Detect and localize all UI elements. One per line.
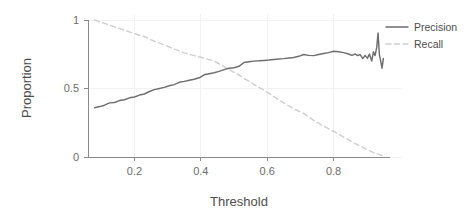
y-tick-label-0: 0	[73, 151, 79, 163]
x-tick-label-2: 0.6	[260, 165, 275, 177]
legend-label-recall: Recall	[414, 38, 443, 50]
y-tick-label-2: 1	[73, 14, 79, 26]
x-tick-label-3: 0.8	[326, 165, 341, 177]
x-tick-label-1: 0.4	[193, 165, 208, 177]
chart-background	[0, 0, 474, 217]
chart-container: 00.51 0.20.40.60.8 Threshold Proportion …	[0, 0, 474, 217]
y-tick-label-1: 0.5	[64, 82, 79, 94]
y-axis-title: Proportion	[19, 58, 34, 118]
precision-recall-chart: 00.51 0.20.40.60.8 Threshold Proportion …	[0, 0, 474, 217]
legend-label-precision: Precision	[414, 21, 457, 33]
x-tick-label-0: 0.2	[127, 165, 142, 177]
x-axis-title: Threshold	[210, 194, 268, 209]
